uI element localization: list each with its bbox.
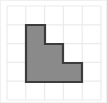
staircase-polygon [26,25,82,82]
figure-svg [0,0,107,103]
figure-canvas [0,0,107,103]
